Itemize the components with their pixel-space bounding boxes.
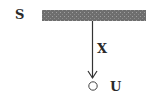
support-label: S <box>15 8 24 21</box>
object-label: U <box>110 80 121 93</box>
ceiling-bar <box>42 10 146 21</box>
string-label: X <box>97 42 107 55</box>
diagram-canvas: S X U <box>0 0 153 100</box>
object-circle <box>89 82 97 90</box>
